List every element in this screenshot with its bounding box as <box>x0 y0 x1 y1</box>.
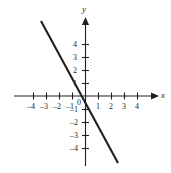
y-tick-label-neg3: –3 <box>70 132 78 140</box>
x-tick-label-neg4: –4 <box>27 103 35 111</box>
y-axis-label: y <box>82 5 86 14</box>
y-tick-label-1: 1 <box>73 80 77 88</box>
y-tick-label-neg4: –4 <box>70 145 78 153</box>
y-axis-arrowhead <box>82 17 89 25</box>
x-axis-label: x <box>161 91 165 100</box>
x-tick-label-4: 4 <box>135 103 139 111</box>
x-tick-label-2: 2 <box>109 103 113 111</box>
cartesian-plane <box>0 0 171 173</box>
plotted-line <box>41 21 118 163</box>
y-tick-label-neg2: –2 <box>70 119 78 127</box>
x-tick-label-neg2: –2 <box>53 103 61 111</box>
y-tick-label-4: 4 <box>73 41 77 49</box>
graph-figure: y x 0 –4 –3 –2 –1 1 2 3 4 4 3 2 1 –1 –2 … <box>0 0 171 173</box>
x-axis-arrowhead <box>151 92 159 99</box>
y-tick-label-3: 3 <box>73 54 77 62</box>
x-tick-label-neg3: –3 <box>40 103 48 111</box>
y-tick-label-neg1: –1 <box>70 106 78 114</box>
y-tick-label-2: 2 <box>73 67 77 75</box>
x-tick-label-1: 1 <box>96 103 100 111</box>
x-tick-label-3: 3 <box>122 103 126 111</box>
